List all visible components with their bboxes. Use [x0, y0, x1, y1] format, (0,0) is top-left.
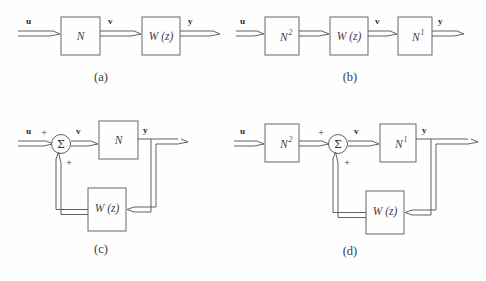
panel-a-input-arrow	[18, 31, 60, 36]
panel-c: Σ + + N	[18, 121, 188, 256]
panel-b-input-arrow	[236, 31, 264, 36]
panel-d-arrow-n2-sum	[299, 141, 329, 146]
panel-b-block-n1-sup: 1	[421, 28, 425, 37]
panel-c-sum-symbol: Σ	[57, 138, 65, 151]
panel-a-block-n-label: N	[76, 30, 86, 42]
panel-d: N 2 Σ + + N 1	[234, 124, 478, 258]
panel-c-label-u: u	[26, 126, 31, 136]
panel-b-block-n1-label: N	[411, 31, 421, 43]
panel-d-block-n1-label: N	[394, 138, 404, 150]
panel-d-output-arrow	[416, 139, 478, 144]
panel-b-block-w-label: W (z)	[337, 30, 362, 43]
panel-c-label-v: v	[76, 126, 81, 136]
panel-d-label-y: y	[422, 125, 427, 135]
panel-c-plus-input: +	[41, 127, 47, 138]
panel-a: N W (z) u v y (a)	[18, 16, 220, 84]
panel-b-label-v: v	[375, 16, 380, 26]
panel-b-v-arrow	[368, 31, 397, 36]
panel-a-output-arrow	[180, 31, 220, 36]
panel-c-v-arrow	[71, 141, 98, 146]
panel-b-label-y: y	[438, 16, 443, 26]
panel-c-caption: (c)	[94, 242, 108, 256]
panel-c-feedback-down	[127, 139, 156, 212]
panel-d-input-arrow	[234, 141, 264, 146]
panel-d-caption: (d)	[343, 244, 358, 258]
panel-c-input-arrow	[18, 141, 53, 146]
figure-canvas: N W (z) u v y (a)	[0, 0, 486, 281]
panel-d-plus-feedback: +	[344, 157, 350, 168]
panel-d-block-n2-label: N	[279, 138, 289, 150]
panel-b: N 2 W (z) N 1	[236, 16, 464, 84]
panel-d-plus-input: +	[318, 127, 324, 138]
panel-a-label-u: u	[26, 16, 31, 26]
panel-c-label-y: y	[143, 125, 148, 135]
panel-b-output-arrow	[432, 31, 464, 36]
panel-c-output-arrow	[138, 139, 188, 144]
panel-d-block-n2-sup: 2	[289, 135, 293, 144]
block-diagram-figure: N W (z) u v y (a)	[0, 0, 486, 281]
panel-a-v-arrow	[100, 31, 141, 36]
panel-d-label-u: u	[240, 126, 245, 136]
panel-d-v-arrow	[348, 141, 379, 146]
panel-c-block-n-label: N	[114, 134, 124, 146]
panel-a-label-y: y	[188, 16, 193, 26]
panel-d-block-w-label: W (z)	[373, 205, 398, 218]
panel-d-sum-symbol: Σ	[334, 138, 342, 151]
panel-a-label-v: v	[108, 16, 113, 26]
panel-d-feedback-down	[405, 139, 436, 215]
panel-b-block-n2-label: N	[279, 31, 289, 43]
panel-b-block-n2-sup: 2	[289, 28, 293, 37]
panel-d-label-v: v	[354, 126, 359, 136]
panel-c-plus-feedback: +	[66, 157, 72, 168]
panel-a-block-w-label: W (z)	[149, 30, 174, 43]
panel-b-label-u: u	[240, 16, 245, 26]
panel-d-block-n1-sup: 1	[404, 135, 408, 144]
panel-b-arrow-n2-w	[299, 31, 329, 36]
panel-a-caption: (a)	[94, 70, 108, 84]
panel-c-block-w-label: W (z)	[95, 202, 120, 215]
panel-b-caption: (b)	[343, 70, 358, 84]
panel-c-feedback-up	[56, 152, 88, 215]
